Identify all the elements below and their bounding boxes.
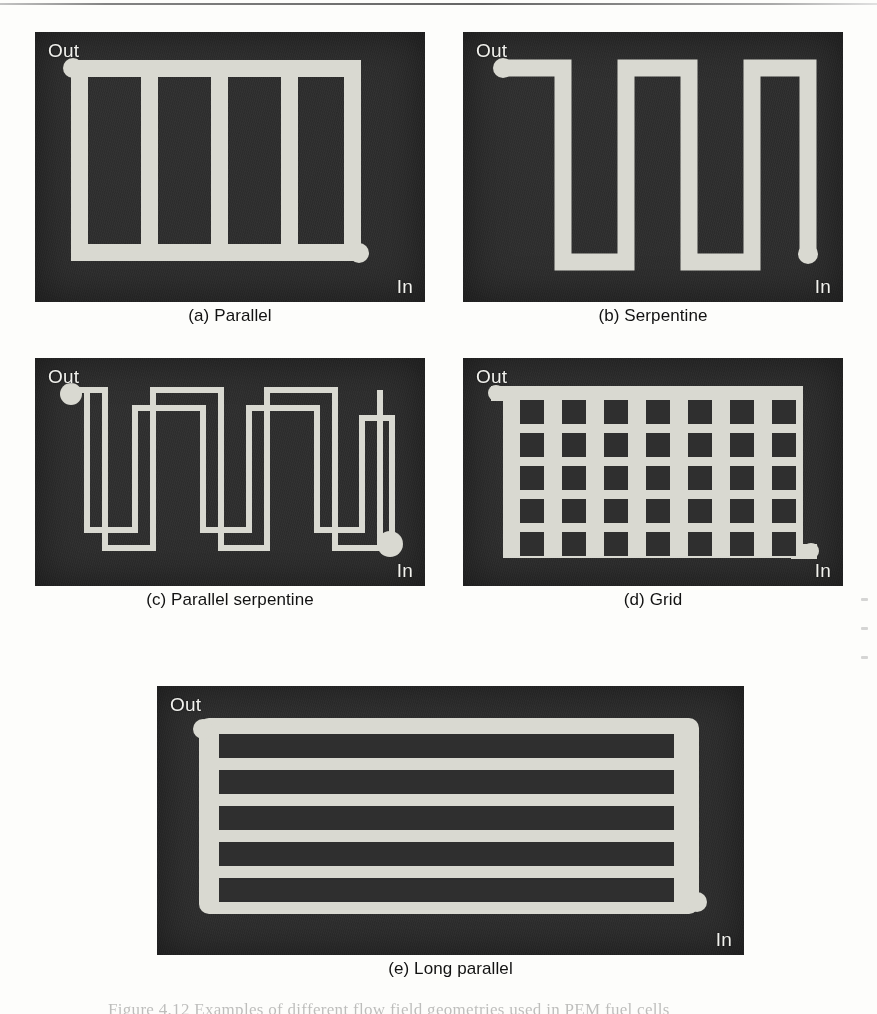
caption-panel-c: (c) Parallel serpentine	[35, 590, 425, 610]
flow-field-art-serpentine	[463, 32, 843, 302]
port-label-out-b: Out	[476, 40, 507, 62]
flow-field-art-grid	[463, 358, 843, 586]
port-label-in-e: In	[716, 929, 732, 951]
panel-serpentine: Out In	[463, 32, 843, 302]
panel-parallel: Out In	[35, 32, 425, 302]
caption-panel-b: (b) Serpentine	[463, 306, 843, 326]
page-top-rule	[0, 3, 877, 5]
port-label-out-e: Out	[170, 694, 201, 716]
panel-grid: Out In	[463, 358, 843, 586]
caption-panel-e: (e) Long parallel	[157, 959, 744, 979]
port-label-out-c: Out	[48, 366, 79, 388]
port-label-out-d: Out	[476, 366, 507, 388]
flow-field-art-parallel-serpentine	[35, 358, 425, 586]
port-label-in-b: In	[815, 276, 831, 298]
port-label-out-a: Out	[48, 40, 79, 62]
flow-field-art-long-parallel	[157, 686, 744, 955]
port-label-in-c: In	[397, 560, 413, 582]
port-label-in-a: In	[397, 276, 413, 298]
caption-panel-d: (d) Grid	[463, 590, 843, 610]
flow-field-art-parallel	[35, 32, 425, 302]
figure-page: Out In (a) Parallel Out In (b) Serpentin…	[0, 0, 877, 1014]
caption-panel-a: (a) Parallel	[35, 306, 425, 326]
panel-parallel-serpentine: Out In	[35, 358, 425, 586]
port-label-in-d: In	[815, 560, 831, 582]
figure-caption-clipped: Figure 4.12 Examples of different flow f…	[108, 1000, 808, 1014]
scan-edge-marks	[861, 598, 871, 718]
panel-long-parallel: Out In	[157, 686, 744, 955]
